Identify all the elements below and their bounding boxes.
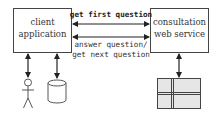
client-label-line2: application: [19, 29, 67, 39]
database-cylinder-icon: [48, 80, 66, 103]
consultation-web-service-node: consultation web service: [151, 9, 209, 53]
user-actor-icon: [22, 79, 34, 108]
edge-label-get-next-question: get next question: [72, 50, 150, 59]
architecture-diagram: client application consultation web serv…: [0, 0, 218, 117]
client-application-node: client application: [14, 9, 72, 53]
service-label-line2: web service: [154, 29, 205, 39]
edge-get-first-question: get first question: [70, 10, 152, 24]
edge-label-get-first-question: get first question: [70, 10, 152, 19]
edge-answer-question: answer question/ get next question: [72, 37, 150, 59]
service-label-line1: consultation: [153, 17, 207, 27]
table-grid-icon: [158, 79, 201, 109]
edge-label-answer-question: answer question/: [74, 40, 147, 49]
client-label-line1: client: [30, 17, 55, 27]
